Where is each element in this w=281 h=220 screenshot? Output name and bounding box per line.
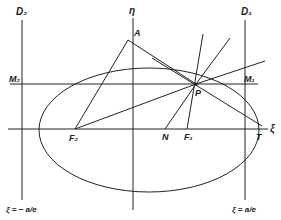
label-p: P: [195, 88, 202, 98]
label-m1: M₁: [244, 74, 255, 84]
label-eta: η: [129, 5, 135, 16]
label-xi: ξ: [270, 123, 275, 135]
label-a: A: [133, 28, 141, 38]
ellipse-diagram: D₂ D₁ η ξ A M₂ M₁ P F₂ N F₁ T ξ = − a/e …: [0, 0, 281, 220]
label-f1: F₁: [184, 132, 193, 142]
label-right-directrix-eq: ξ = a/e: [232, 205, 256, 214]
segment-a-p: [128, 40, 196, 84]
label-d2: D₂: [16, 6, 27, 17]
label-d1: D₁: [241, 6, 252, 17]
normal-line-pn: [165, 84, 196, 129]
label-n: N: [162, 132, 169, 142]
point-p: [194, 82, 197, 85]
label-t: T: [256, 132, 263, 142]
label-m2: M₂: [9, 74, 20, 84]
segment-f2-p: [75, 84, 196, 129]
label-left-directrix-eq: ξ = − a/e: [6, 205, 37, 214]
label-f2: F₂: [69, 133, 78, 143]
ellipse: [39, 68, 259, 192]
